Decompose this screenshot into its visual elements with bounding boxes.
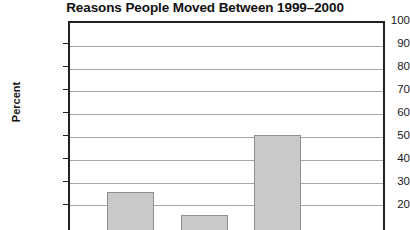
bar xyxy=(254,135,301,230)
bar-chart: Reasons People Moved Between 1999–2000 P… xyxy=(0,0,410,230)
gridline xyxy=(70,69,383,70)
y-axis-title: Percent xyxy=(10,72,22,132)
gridline xyxy=(70,183,383,184)
gridline xyxy=(70,91,383,92)
gridline xyxy=(70,137,383,138)
gridline xyxy=(70,114,383,115)
bar xyxy=(107,192,154,230)
gridline xyxy=(70,46,383,47)
bar xyxy=(181,215,228,230)
gridline xyxy=(70,160,383,161)
plot-area xyxy=(68,21,385,230)
chart-title: Reasons People Moved Between 1999–2000 xyxy=(0,0,410,16)
